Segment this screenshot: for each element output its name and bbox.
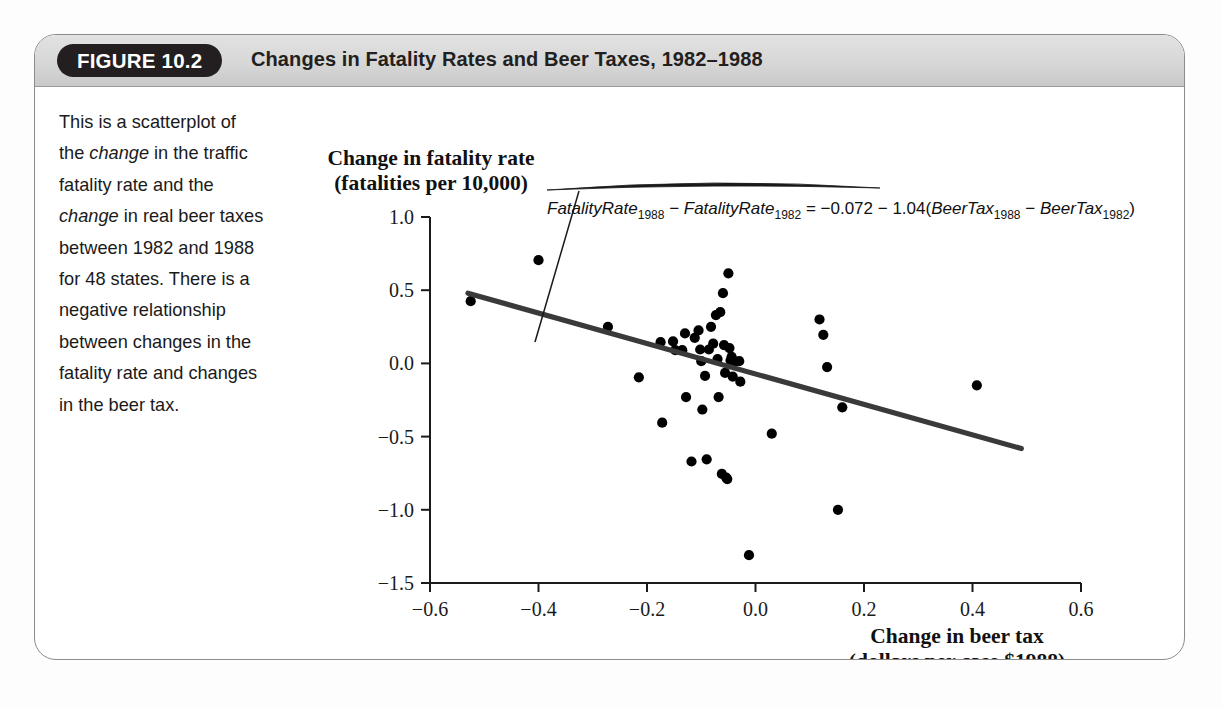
scatter-point: [718, 288, 728, 298]
equation-text: FatalityRate1988 − FatalityRate1982 = −0…: [547, 199, 1135, 222]
x-tick-label: −0.4: [520, 598, 556, 620]
y-axis-title-line1: Change in fatality rate: [327, 146, 534, 170]
scatter-point: [724, 343, 734, 353]
scatter-point: [735, 377, 745, 387]
scatter-point: [814, 314, 824, 324]
scatter-point: [837, 402, 847, 412]
y-tick-label: 0.0: [389, 352, 414, 374]
scatter-point: [767, 429, 777, 439]
scatter-point: [822, 362, 832, 372]
y-axis-title-line2: (fatalities per 10,000): [334, 171, 528, 195]
tick-labels: 1.00.50.0−0.5−1.0−1.5−0.6−0.4−0.20.00.20…: [378, 206, 1094, 620]
scatter-point: [668, 336, 678, 346]
x-tick-label: 0.0: [743, 598, 768, 620]
scatter-point: [818, 330, 828, 340]
scatter-point: [722, 474, 732, 484]
scatter-point: [686, 456, 696, 466]
scatter-point: [693, 325, 703, 335]
scatter-point: [708, 339, 718, 349]
chart-svg: 1.00.50.0−0.5−1.0−1.5−0.6−0.4−0.20.00.20…: [35, 87, 1185, 660]
x-axis-title-line2: (dollars per case $1988): [849, 649, 1065, 660]
scatter-point: [714, 392, 724, 402]
equation-brace: [547, 183, 880, 190]
y-tick-label: −1.0: [378, 499, 414, 521]
scatter-point: [744, 550, 754, 560]
scatter-point: [734, 356, 744, 366]
x-tick-label: 0.2: [852, 598, 877, 620]
scatter-point: [723, 268, 733, 278]
figure-title: Changes in Fatality Rates and Beer Taxes…: [251, 48, 763, 71]
scatter-point: [702, 454, 712, 464]
regression-line-segment: [468, 293, 1021, 448]
x-tick-label: −0.6: [412, 598, 448, 620]
x-tick-label: −0.2: [629, 598, 665, 620]
scatter-point: [972, 380, 982, 390]
y-tick-label: 0.5: [389, 279, 414, 301]
x-axis-title-line1: Change in beer tax: [870, 624, 1044, 648]
y-tick-label: −1.5: [378, 572, 414, 594]
y-tick-label: −0.5: [378, 426, 414, 448]
scatter-point: [533, 255, 543, 265]
scatter-point: [634, 372, 644, 382]
x-tick-label: 0.4: [960, 598, 985, 620]
scatter-point: [695, 344, 705, 354]
figure-header-band: FIGURE 10.2 Changes in Fatality Rates an…: [35, 35, 1184, 87]
figure-container: FIGURE 10.2 Changes in Fatality Rates an…: [34, 34, 1185, 660]
scatter-point: [681, 392, 691, 402]
regression-line: [468, 293, 1021, 448]
x-tick-label: 0.6: [1069, 598, 1094, 620]
scatter-point: [706, 322, 716, 332]
data-points: [466, 255, 982, 560]
figure-number-badge: FIGURE 10.2: [57, 44, 222, 77]
scatter-point: [700, 371, 710, 381]
scatter-point: [697, 404, 707, 414]
scatter-point: [657, 418, 667, 428]
scatter-point: [715, 307, 725, 317]
y-tick-label: 1.0: [389, 206, 414, 228]
scatter-point: [833, 505, 843, 515]
scatter-point: [680, 328, 690, 338]
axes: [421, 217, 1081, 592]
regression-equation: FatalityRate1988 − FatalityRate1982 = −0…: [547, 199, 1135, 222]
scatterplot-area: 1.00.50.0−0.5−1.0−1.5−0.6−0.4−0.20.00.20…: [35, 87, 1185, 660]
